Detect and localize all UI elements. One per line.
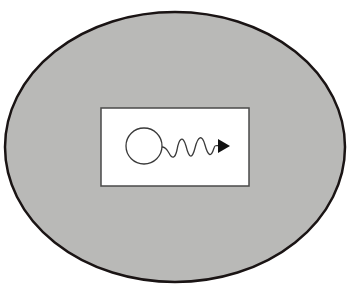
diagram-canvas	[0, 0, 359, 292]
